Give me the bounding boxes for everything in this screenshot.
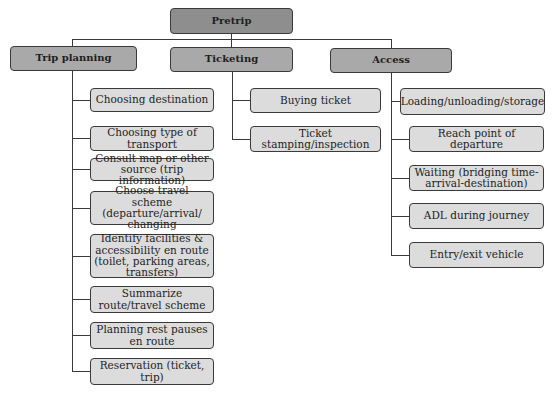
node-choosing-transport: Choosing type of transport: [90, 126, 214, 151]
connector: [391, 178, 409, 179]
connector: [72, 39, 392, 40]
connector: [231, 34, 232, 48]
node-buying-ticket: Buying ticket: [250, 88, 381, 113]
connector: [72, 208, 90, 209]
connector: [72, 169, 90, 170]
connector: [232, 100, 250, 101]
connector: [72, 335, 90, 336]
node-entry-exit: Entry/exit vehicle: [409, 242, 544, 268]
node-pretrip: Pretrip: [170, 8, 293, 34]
node-planning-rest: Planning rest pauses en route: [90, 322, 214, 349]
connector: [72, 299, 90, 300]
node-loading: Loading/unloading/storage: [400, 88, 545, 115]
node-waiting: Waiting (bridging time-arrival-destinati…: [409, 165, 544, 191]
connector: [72, 256, 90, 257]
node-choosing-destination: Choosing destination: [90, 88, 214, 112]
node-reach-departure: Reach point of departure: [409, 126, 544, 152]
connector: [391, 216, 409, 217]
connector: [72, 371, 90, 372]
node-adl-journey: ADL during journey: [409, 203, 544, 229]
node-reservation: Reservation (ticket, trip): [90, 358, 214, 385]
node-access: Access: [330, 48, 452, 73]
connector: [72, 71, 73, 372]
connector: [72, 138, 90, 139]
node-consult-map: Consult map or other source (trip inform…: [90, 158, 214, 181]
node-trip-planning: Trip planning: [10, 46, 137, 71]
connector: [232, 72, 233, 139]
connector: [391, 255, 409, 256]
node-travel-scheme: Choose travel scheme (departure/arrival/…: [90, 191, 214, 225]
connector: [391, 139, 409, 140]
connector: [391, 39, 392, 48]
connector: [72, 100, 90, 101]
node-identify-facilities: Identify facilities & accessibility en r…: [90, 234, 214, 278]
node-ticketing: Ticketing: [170, 47, 293, 72]
connector: [232, 139, 250, 140]
node-ticket-stamping: Ticket stamping/inspection: [250, 126, 381, 152]
node-summarize-route: Summarize route/travel scheme: [90, 286, 214, 313]
